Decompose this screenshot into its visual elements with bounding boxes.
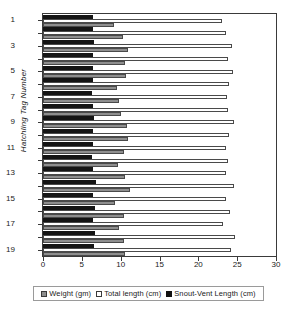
weight-swatch [41,291,47,297]
bar-weight-tag-16 [43,214,124,218]
x-tick-label-0: 0 [31,260,55,269]
legend-item-2[interactable]: Snout-Vent Length (cm) [166,289,255,298]
bar-weight-tag-9 [43,124,127,128]
y-tick-mark-10 [38,135,42,136]
total-length-swatch [96,291,102,297]
legend-label-1: Total length (cm) [104,289,161,298]
y-tick-label-9: 9 [0,118,15,126]
y-tick-label-3: 3 [0,42,15,50]
y-tick-mark-16 [38,211,42,212]
y-tick-mark-15 [38,199,42,200]
legend-item-1[interactable]: Total length (cm) [96,289,161,298]
y-tick-label-11: 11 [0,144,15,152]
y-tick-mark-14 [38,186,42,187]
bar-weight-tag-19 [43,252,125,256]
y-tick-label-5: 5 [0,67,15,75]
snout-vent-swatch [166,291,172,297]
bar-weight-tag-17 [43,226,119,230]
x-tick-mark-10 [121,257,122,261]
chart-legend: Weight (gm)Total length (cm)Snout-Vent L… [33,286,264,301]
bar-weight-tag-11 [43,150,124,154]
y-tick-label-15: 15 [0,195,15,203]
y-tick-mark-2 [38,33,42,34]
bar-weight-tag-4 [43,61,125,65]
x-tick-label-20: 20 [186,260,210,269]
y-tick-mark-6 [38,84,42,85]
x-tick-label-25: 25 [225,260,249,269]
x-tick-label-15: 15 [148,260,172,269]
y-tick-mark-12 [38,160,42,161]
y-tick-mark-5 [38,71,42,72]
y-tick-mark-11 [38,148,42,149]
x-tick-label-30: 30 [264,260,288,269]
bar-weight-tag-13 [43,175,125,179]
y-tick-label-19: 19 [0,246,15,254]
x-tick-mark-20 [198,257,199,261]
bar-weight-tag-5 [43,74,126,78]
y-tick-label-13: 13 [0,169,15,177]
bar-weight-tag-7 [43,99,119,103]
x-tick-label-5: 5 [70,260,94,269]
bar-weight-tag-18 [43,239,124,243]
y-tick-mark-7 [38,97,42,98]
legend-item-0[interactable]: Weight (gm) [41,289,91,298]
x-tick-mark-25 [237,257,238,261]
x-tick-mark-5 [82,257,83,261]
x-tick-mark-15 [160,257,161,261]
y-tick-mark-13 [38,173,42,174]
y-tick-mark-4 [38,59,42,60]
x-tick-mark-30 [276,257,277,261]
y-tick-mark-17 [38,224,42,225]
y-tick-label-17: 17 [0,220,15,228]
bar-weight-tag-14 [43,188,130,192]
y-tick-mark-3 [38,46,42,47]
y-tick-mark-1 [38,20,42,21]
x-tick-label-10: 10 [109,260,133,269]
bar-weight-tag-12 [43,163,118,167]
y-tick-label-7: 7 [0,93,15,101]
bar-weight-tag-6 [43,86,117,90]
y-tick-label-1: 1 [0,16,15,24]
bar-weight-tag-1 [43,23,114,27]
bar-weight-tag-8 [43,112,121,116]
y-tick-mark-9 [38,122,42,123]
legend-label-0: Weight (gm) [49,289,91,298]
bar-weight-tag-15 [43,201,115,205]
y-tick-mark-19 [38,250,42,251]
bar-weight-tag-10 [43,137,128,141]
bar-weight-tag-2 [43,35,123,39]
legend-label-2: Snout-Vent Length (cm) [174,289,255,298]
x-tick-mark-0 [43,257,44,261]
bar-series-container [43,14,276,256]
bar-chart: Hatchling Tag Number 135791113151719 051… [0,0,297,318]
y-tick-mark-18 [38,237,42,238]
y-tick-mark-8 [38,110,42,111]
bar-weight-tag-3 [43,48,128,52]
